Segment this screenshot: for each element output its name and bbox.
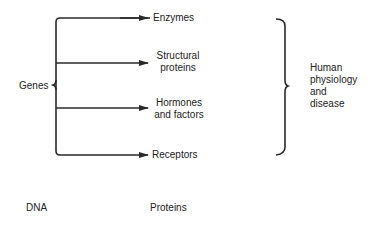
target-hormones-factors: Hormones and factors	[150, 97, 208, 121]
target-line: Hormones	[150, 97, 208, 109]
trunk-line	[56, 18, 150, 155]
outcome-line: Human	[310, 62, 357, 74]
outcome-line: and	[310, 86, 357, 98]
target-line: proteins	[152, 62, 204, 74]
outcome-line: disease	[310, 98, 357, 110]
outcome-label: Human physiology and disease	[310, 62, 357, 110]
target-structural-proteins: Structural proteins	[152, 50, 204, 74]
genes-label: Genes	[19, 80, 48, 92]
target-line: and factors	[150, 109, 208, 121]
footer-dna: DNA	[26, 202, 47, 214]
target-receptors: Receptors	[152, 149, 198, 161]
gene-protein-diagram: Genes Enzymes Structural proteins Hormon…	[0, 0, 373, 229]
outcome-line: physiology	[310, 74, 357, 86]
target-enzymes: Enzymes	[153, 12, 194, 24]
target-line: Structural	[152, 50, 204, 62]
outcome-brace	[276, 19, 288, 155]
footer-proteins: Proteins	[150, 202, 187, 214]
